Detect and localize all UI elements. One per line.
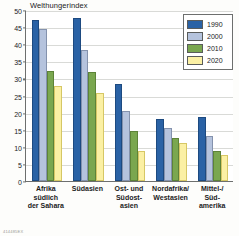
- chart-container: Welthungerindex 05101520253035404550 Afr…: [0, 0, 239, 236]
- y-axis-tick-label: 20: [14, 110, 22, 117]
- bar: [32, 20, 40, 181]
- bar: [47, 71, 55, 181]
- chart-title: Welthungerindex: [30, 1, 88, 10]
- bar: [172, 138, 180, 181]
- legend-swatch: [187, 20, 203, 29]
- bar: [96, 93, 104, 181]
- y-axis-tick-label: 45: [14, 25, 22, 32]
- category-label-line: asien: [108, 202, 150, 211]
- bar: [81, 50, 89, 181]
- legend-label: 1990: [207, 21, 223, 28]
- y-axis-tick-label: 30: [14, 76, 22, 83]
- legend-item[interactable]: 2020: [187, 54, 229, 66]
- y-axis-tick-label: 15: [14, 127, 22, 134]
- category-label-line: Afrika: [25, 185, 67, 194]
- category-label: Ost- undSüdost-asien: [108, 185, 150, 211]
- legend-label: 2020: [207, 57, 223, 64]
- legend-item[interactable]: 2000: [187, 30, 229, 42]
- category-label: Mittel-/Süd-amerika: [191, 185, 233, 211]
- y-axis-tick-label: 25: [14, 93, 22, 100]
- bar: [221, 155, 229, 181]
- category-label-line: Südasien: [67, 185, 109, 194]
- legend-item[interactable]: 1990: [187, 18, 229, 30]
- category-label-line: Ost- und: [108, 185, 150, 194]
- bar-group: [109, 11, 151, 181]
- category-label-line: südlich: [25, 194, 67, 203]
- bar: [39, 29, 47, 181]
- bar-group: [68, 11, 110, 181]
- bar: [54, 86, 62, 181]
- bar: [122, 111, 130, 181]
- category-label-line: Südost-: [108, 194, 150, 203]
- bar: [130, 131, 138, 181]
- bar: [73, 18, 81, 181]
- category-label-line: der Sahara: [25, 202, 67, 211]
- y-axis-tick-label: 0: [18, 179, 22, 186]
- bar: [164, 128, 172, 181]
- bar: [179, 143, 187, 181]
- y-axis-tick-label: 40: [14, 42, 22, 49]
- bar: [198, 117, 206, 181]
- category-label: Nordafrika/Westasien: [150, 185, 192, 202]
- legend-swatch: [187, 56, 203, 65]
- category-label-line: amerika: [191, 202, 233, 211]
- legend-label: 2000: [207, 33, 223, 40]
- source-code: 414485EX: [3, 229, 23, 234]
- y-axis-tick-label: 35: [14, 59, 22, 66]
- bar: [138, 151, 146, 181]
- legend-swatch: [187, 32, 203, 41]
- y-axis-tick-mark: [23, 181, 26, 182]
- category-label-line: Nordafrika/: [150, 185, 192, 194]
- category-label: Südasien: [67, 185, 109, 194]
- category-label-line: Süd-: [191, 194, 233, 203]
- y-axis-tick-label: 5: [18, 161, 22, 168]
- category-label: Afrikasüdlichder Sahara: [25, 185, 67, 211]
- y-axis-tick-label: 50: [14, 8, 22, 15]
- legend-swatch: [187, 44, 203, 53]
- legend-label: 2010: [207, 45, 223, 52]
- y-axis-tick-label: 10: [14, 144, 22, 151]
- category-label-line: Westasien: [150, 194, 192, 203]
- bar: [115, 84, 123, 181]
- legend: 1990200020102020: [183, 14, 233, 70]
- legend-item[interactable]: 2010: [187, 42, 229, 54]
- bar: [156, 119, 164, 181]
- category-label-line: Mittel-/: [191, 185, 233, 194]
- bar: [213, 151, 221, 181]
- bar: [206, 136, 214, 181]
- bar: [88, 72, 96, 181]
- bar-group: [26, 11, 68, 181]
